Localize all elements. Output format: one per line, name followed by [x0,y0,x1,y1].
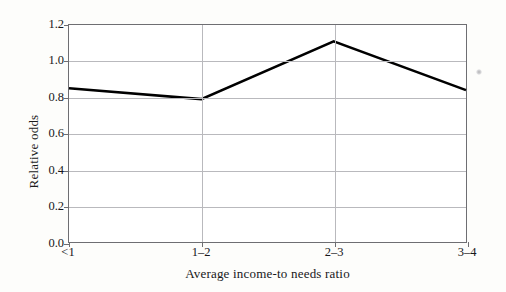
x-axis-tick-label: 3–4 [458,246,477,259]
y-axis-tick-label: 0.0 [30,237,64,250]
gridline-horizontal [69,207,466,208]
y-axis-tick-mark [64,171,69,172]
y-axis-tick-mark [64,207,69,208]
gridline-vertical [335,25,336,242]
gridline-horizontal [69,171,466,172]
scan-speck-artifact [476,69,482,75]
x-axis-tick-label: 1–2 [192,246,211,259]
plot-area [68,24,467,243]
y-axis-tick-mark [64,61,69,62]
gridline-horizontal [69,61,466,62]
x-axis-tick-label: <1 [61,246,74,259]
y-axis-tick-labels: 0.00.20.40.60.81.01.2 [28,0,64,292]
y-axis-tick-mark [64,25,69,26]
y-axis-tick-mark [64,98,69,99]
y-axis-tick-mark [64,134,69,135]
gridline-vertical [202,25,203,242]
gridline-horizontal [69,98,466,99]
y-axis-tick-label: 0.2 [30,200,64,213]
y-axis-tick-label: 0.8 [30,91,64,104]
chart-figure: Relative odds 0.00.20.40.60.81.01.2 <11–… [0,0,506,292]
y-axis-tick-label: 1.2 [30,18,64,31]
x-axis-tick-label: 2–3 [325,246,344,259]
x-axis-title-label: Average income-to needs ratio [185,266,350,281]
y-axis-tick-label: 0.6 [30,127,64,140]
y-axis-tick-label: 1.0 [30,54,64,67]
x-axis-tick-labels: <11–22–33–4 [68,246,467,266]
x-axis-title: Average income-to needs ratio [68,266,467,282]
y-axis-tick-label: 0.4 [30,164,64,177]
series-polyline [69,41,466,99]
gridline-horizontal [69,134,466,135]
